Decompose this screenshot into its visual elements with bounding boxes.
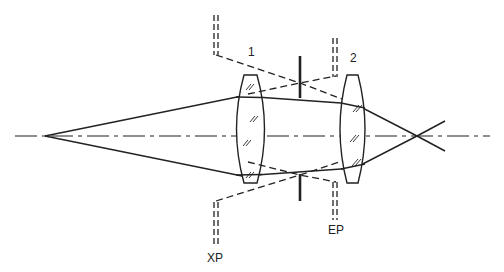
lens-1-label: 1	[248, 45, 255, 59]
pupil-construction-lines	[216, 55, 342, 201]
entrance-pupil-label: EP	[328, 223, 344, 237]
exit-pupil-marker	[214, 15, 218, 246]
exit-pupil-label: XP	[207, 251, 223, 265]
lens-2-label: 2	[350, 51, 357, 65]
entrance-pupil-marker	[333, 38, 337, 220]
optical-diagram: 1 2 XP EP	[0, 0, 504, 272]
